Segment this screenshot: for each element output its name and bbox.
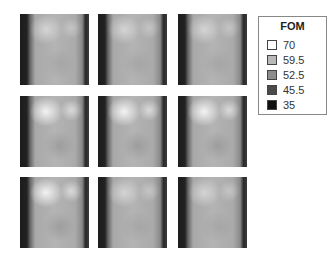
legend-item: 35 <box>267 98 295 112</box>
heatmap-panel <box>178 177 247 248</box>
legend-swatch <box>267 85 277 95</box>
legend-swatch <box>267 100 277 110</box>
heatmap-panel <box>20 96 89 167</box>
legend-item: 45.5 <box>267 83 304 97</box>
heatmap-panel <box>178 96 247 167</box>
legend-swatch <box>267 40 277 50</box>
heatmap-panel <box>20 14 89 85</box>
legend-label: 70 <box>283 39 295 51</box>
legend-label: 35 <box>283 99 295 111</box>
heatmap-panel <box>178 14 247 85</box>
legend-swatch <box>267 70 277 80</box>
legend-label: 59.5 <box>283 54 304 66</box>
legend: FOM 7059.552.545.535 <box>258 16 327 115</box>
legend-item: 52.5 <box>267 68 304 82</box>
heatmap-panel <box>98 177 167 248</box>
legend-swatch <box>267 55 277 65</box>
heatmap-panel <box>20 177 89 248</box>
legend-label: 45.5 <box>283 84 304 96</box>
legend-item: 70 <box>267 38 295 52</box>
legend-item: 59.5 <box>267 53 304 67</box>
legend-label: 52.5 <box>283 69 304 81</box>
heatmap-panel <box>98 14 167 85</box>
legend-title: FOM <box>259 20 326 32</box>
heatmap-panel <box>98 96 167 167</box>
